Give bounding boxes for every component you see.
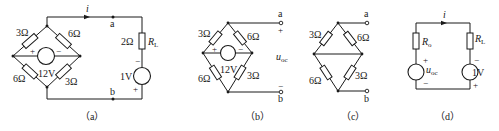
load-minus-sign: − [474,55,479,65]
circuit-diagram-canvas: i a b 3Ω 6Ω 6Ω 3Ω 12V + − 2Ω RL 1V − + （… [0,0,499,131]
node-b-label: b [278,93,283,104]
figure-c: a b 3Ω 6Ω 6Ω 3Ω （c） [309,8,369,122]
voltage-source-1v [134,68,151,85]
label-6ohm-bottom-left: 6Ω [198,73,210,84]
node-a-label: a [110,18,115,29]
label-6ohm-top-right: 6Ω [247,31,259,42]
resistor-6ohm-bottom-left [320,65,332,80]
label-rl: RL [147,36,158,49]
label-3ohm-bottom-right: 3Ω [247,70,259,81]
resistor-3ohm-top-left [320,31,333,45]
current-arrow-icon [84,15,90,19]
label-rl: RL [474,33,485,46]
node-a-label: a [278,8,283,19]
load-plus-sign: + [473,80,478,90]
resistor-6ohm-top-right [234,31,247,45]
label-3ohm-bottom-right: 3Ω [65,76,77,87]
current-label: i [443,9,446,20]
resistor-rl [467,33,473,49]
label-uoc: uoc [426,64,438,77]
label-6ohm-top-right: 6Ω [68,28,80,39]
node-b-label: b [110,86,115,97]
label-3ohm-bottom-right: 3Ω [355,70,367,81]
node-a-label: a [364,8,369,19]
label-uoc: uoc [276,51,288,64]
current-arrow-icon [441,21,447,25]
load-plus-sign: + [133,84,138,94]
source-minus-sign: − [56,46,61,56]
terminal-a [365,21,369,25]
resistor-rl [139,33,145,49]
label-2ohm: 2Ω [121,36,133,47]
voltage-source-uoc [408,64,424,80]
current-label: i [86,3,89,14]
resistor-6ohm-top-right [344,31,357,45]
load-minus-sign: − [135,56,140,66]
caption-b: （b） [245,111,270,122]
node-b-label: b [364,93,369,104]
label-ro: Ro [421,36,432,49]
label-3ohm-top-left: 3Ω [309,29,321,40]
figure-d: i Ro RL + uoc − − 1V + （d） [408,9,485,122]
label-12v: 12V [38,68,56,79]
terminal-minus-sign: − [278,81,283,91]
caption-a: （a） [80,111,104,122]
voltage-source-12v [221,46,236,61]
source-plus-sign: + [212,44,217,54]
label-6ohm-bottom-left: 6Ω [13,73,25,84]
label-1v: 1V [120,71,133,82]
label-6ohm-bottom-left: 6Ω [309,75,321,86]
figure-a: i a b 3Ω 6Ω 6Ω 3Ω 12V + − 2Ω RL 1V − + （… [12,3,159,122]
label-3ohm-top-left: 3Ω [198,28,210,39]
label-3ohm-top-left: 3Ω [16,27,28,38]
voltage-source-12v [38,48,55,65]
label-1v: 1V [472,67,485,78]
label-6ohm-top-right: 6Ω [357,32,369,43]
terminal-plus-sign: + [278,25,283,35]
resistor-3ohm-top-left [209,31,222,45]
source-plus-sign: + [30,46,35,56]
caption-c: （c） [341,111,365,122]
figure-b: a + uoc − b 3Ω 6Ω 6Ω 3Ω 12V + − （b） [198,8,288,122]
label-12v: 12V [220,64,238,75]
resistor-ro [413,33,419,49]
uoc-minus-sign: − [423,78,428,88]
caption-d: （d） [435,111,460,122]
source-minus-sign: − [238,44,243,54]
